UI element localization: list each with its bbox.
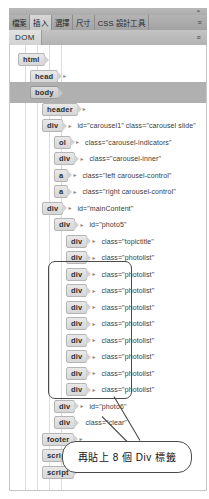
panel-menu-icon[interactable]: ≡ [191, 15, 207, 30]
annotation-leader-line [10, 45, 206, 491]
toolbar-tab-label: CSS 設計工具 [98, 17, 145, 28]
toolbar-empty-space [149, 15, 191, 30]
toolbar-tab-2[interactable]: 選擇 [52, 15, 73, 30]
dom-tree-panel[interactable]: htmlhead▸bodyheader▸div▸id="carousel1" c… [9, 45, 207, 491]
toolbar-tab-4[interactable]: CSS 設計工具 [95, 15, 149, 30]
panel-options-icon[interactable]: ≡ [189, 30, 207, 45]
toolbar-tab-label: 選擇 [55, 17, 69, 28]
toolbar-tab-label: 插入 [33, 17, 47, 28]
toolbar-tab-label: 尺寸 [76, 17, 90, 28]
window-top-strip [9, 8, 207, 15]
dom-panel-window: ▪▪▪ 檔案 插入 選擇 尺寸 CSS 設計工具 ≡ DOM ≡ htmlhea… [0, 0, 209, 499]
main-toolbar[interactable]: 檔案 插入 選擇 尺寸 CSS 設計工具 ≡ [9, 15, 207, 31]
annotation-callout-bubble: 再貼上 8 個 Div 標籤 [62, 441, 192, 473]
toolbar-tab-0[interactable]: 檔案 [9, 15, 30, 30]
toolbar-tab-label: 檔案 [12, 17, 26, 28]
tab-dom[interactable]: DOM [9, 30, 42, 45]
toolbar-tab-3[interactable]: 尺寸 [73, 15, 94, 30]
dom-tree-list[interactable]: htmlhead▸bodyheader▸div▸id="carousel1" c… [10, 45, 206, 490]
dom-panel-tabbar[interactable]: DOM ≡ [9, 30, 207, 46]
tab-dom-label: DOM [15, 33, 35, 42]
toolbar-tab-1[interactable]: 插入 [30, 15, 51, 30]
tabbar-empty-space [42, 30, 189, 45]
